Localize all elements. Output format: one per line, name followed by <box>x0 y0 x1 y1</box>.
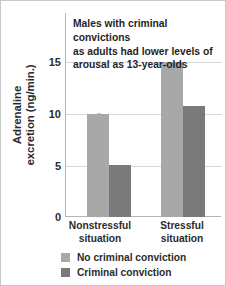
bar-stressful-conviction <box>183 106 205 217</box>
y-tick-label-5: 5 <box>37 160 61 172</box>
bar-nonstressful-conviction <box>109 165 131 217</box>
y-tick-label-15: 15 <box>37 56 61 68</box>
x-category-label-nonstressful-line-2: situation <box>57 233 143 246</box>
chart-title-line-3: arousal as 13-year-olds <box>73 58 219 72</box>
chart-title-line-2: as adults had lower levels of <box>73 45 219 59</box>
legend-label-no-criminal-conviction: No criminal conviction <box>77 252 186 263</box>
bar-nonstressful-no-conviction <box>87 114 109 217</box>
y-axis-label-line-1: Adrenaline <box>11 86 23 144</box>
x-category-label-stressful-line-2: situation <box>143 233 221 246</box>
legend-item-criminal-conviction: Criminal conviction <box>61 265 186 280</box>
chart-title-line-1: Males with criminal convictions <box>73 17 219 45</box>
legend-label-criminal-conviction: Criminal conviction <box>77 267 172 278</box>
legend-swatch-no-criminal-conviction <box>61 253 70 262</box>
legend-swatch-criminal-conviction <box>61 268 70 277</box>
chart-figure: Adrenaline excretion (ng/min.) 15 10 5 0… <box>0 0 226 286</box>
legend-item-no-criminal-conviction: No criminal conviction <box>61 250 186 265</box>
x-category-label-nonstressful-line-1: Nonstressful <box>57 220 143 233</box>
chart-title: Males with criminal convictions as adult… <box>73 17 219 72</box>
x-category-label-stressful-line-1: Stressful <box>143 220 221 233</box>
x-category-label-stressful: Stressful situation <box>143 220 221 246</box>
chart-legend: No criminal conviction Criminal convicti… <box>61 250 186 280</box>
x-category-label-nonstressful: Nonstressful situation <box>57 220 143 246</box>
bar-stressful-no-conviction <box>161 62 183 217</box>
y-tick-label-10: 10 <box>37 108 61 120</box>
